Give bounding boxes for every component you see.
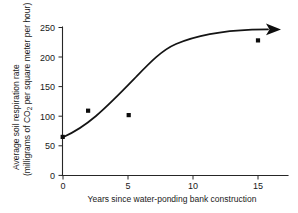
soil-respiration-chart: Average soil respiration rate (milligram… — [0, 0, 298, 213]
y-axis-title: Average soil respiration rate (milligram… — [11, 3, 33, 176]
y-tick-label-0: 0 — [50, 171, 55, 181]
y-axis-ticks — [59, 28, 63, 176]
data-point-year-2 — [86, 109, 90, 113]
y-axis-title-line1: Average soil respiration rate — [11, 64, 21, 170]
data-point-year-5 — [127, 113, 131, 117]
y-tick-label-150: 150 — [40, 82, 55, 92]
y-axis-tick-labels: 250 200 150 100 50 0 — [40, 23, 55, 181]
data-point-year-0 — [61, 135, 65, 139]
y-axis-title-line2: (milligrams of CO2 per square meter per … — [22, 3, 33, 176]
y-axis-title-line2-main: (milligrams of CO — [22, 110, 32, 176]
y-axis-title-line2-rest: per square meter per hour) — [22, 3, 32, 107]
trend-curve — [63, 29, 268, 137]
y-tick-label-250: 250 — [40, 23, 55, 33]
x-axis-tick-labels: 0 5 10 15 — [60, 181, 263, 191]
x-tick-label-0: 0 — [60, 181, 65, 191]
y-tick-label-200: 200 — [40, 53, 55, 63]
x-axis-title: Years since water-ponding bank construct… — [88, 194, 257, 204]
data-point-year-15 — [256, 38, 260, 42]
y-tick-label-100: 100 — [40, 112, 55, 122]
x-axis-ticks — [63, 176, 258, 180]
x-tick-label-10: 10 — [188, 181, 198, 191]
x-tick-label-5: 5 — [125, 181, 130, 191]
chart-figure: Average soil respiration rate (milligram… — [0, 0, 298, 213]
x-tick-label-15: 15 — [253, 181, 263, 191]
y-tick-label-50: 50 — [45, 141, 55, 151]
